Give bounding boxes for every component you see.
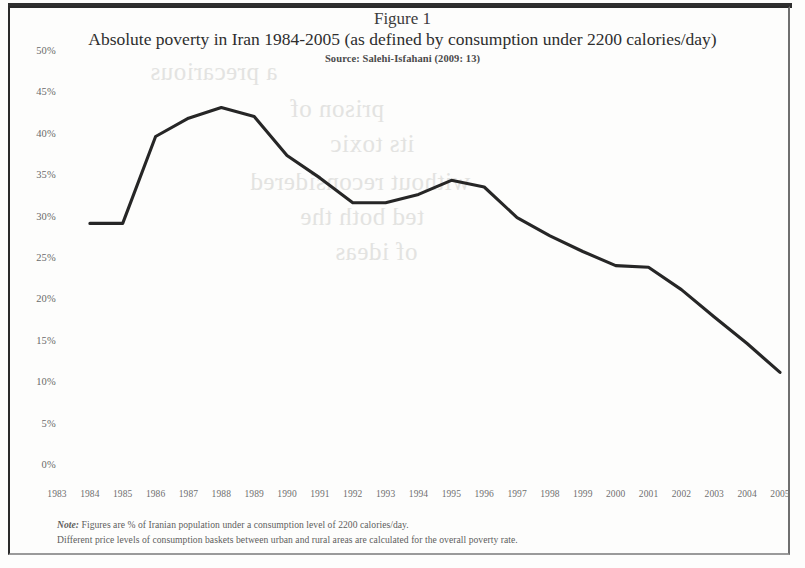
figure-note-line-1: Note: Figures are % of Iranian populatio…: [57, 519, 409, 530]
figure-note-line-2: Different price levels of consumption ba…: [57, 534, 518, 545]
series-line-absolute-poverty: [90, 108, 780, 373]
poverty-line-chart: [0, 0, 805, 568]
note-body-1: Figures are % of Iranian population unde…: [79, 519, 409, 530]
scanned-page: a precarious prison of its toxic without…: [0, 0, 805, 568]
note-prefix: Note:: [57, 519, 79, 530]
